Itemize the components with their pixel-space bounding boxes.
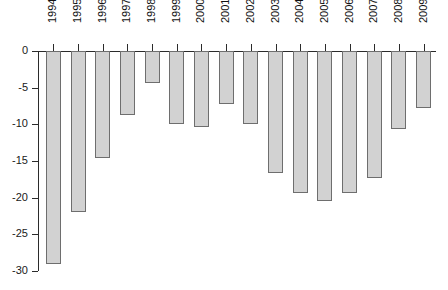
bar [71,51,86,212]
x-tick [177,44,178,51]
x-tick-label: 1997 [121,0,132,23]
y-tick-label: -30 [0,265,28,276]
x-tick-label: 2006 [344,0,355,23]
bar [219,51,234,104]
bar [145,51,160,83]
x-tick [152,44,153,51]
y-tick-label: -15 [0,155,28,166]
x-tick [201,44,202,51]
y-tick-label: -5 [0,82,28,93]
y-tick [32,271,38,272]
bar [95,51,110,158]
y-tick-label: -20 [0,192,28,203]
x-tick-label: 1994 [47,0,58,23]
y-tick [32,88,38,89]
x-tick [424,44,425,51]
bar [169,51,184,124]
y-tick-label: -10 [0,118,28,129]
x-tick-label: 2009 [418,0,429,23]
x-tick-label: 2008 [393,0,404,23]
x-tick-label: 1999 [171,0,182,23]
x-tick [374,44,375,51]
bar [268,51,283,173]
x-tick-label: 2003 [270,0,281,23]
x-tick-label: 2005 [319,0,330,23]
bar [391,51,406,129]
bar [342,51,357,193]
bar [46,51,61,264]
x-tick-label: 1995 [72,0,83,23]
x-tick [350,44,351,51]
x-tick-label: 2002 [245,0,256,23]
y-tick [32,51,38,52]
x-tick [399,44,400,51]
x-tick [127,44,128,51]
x-tick-label: 2007 [368,0,379,23]
bar [293,51,308,193]
x-tick [300,44,301,51]
x-tick [226,44,227,51]
y-tick [32,161,38,162]
bar-chart: 0-5-10-15-20-25-30 199419951996199719981… [0,0,448,290]
x-tick-label: 2004 [294,0,305,23]
plot-area: 0-5-10-15-20-25-30 199419951996199719981… [0,0,448,290]
bar [120,51,135,115]
x-tick-label: 2000 [195,0,206,23]
x-tick [53,44,54,51]
bar [416,51,431,108]
x-tick [103,44,104,51]
x-tick [251,44,252,51]
bar [317,51,332,201]
y-tick [32,124,38,125]
y-tick [32,234,38,235]
x-tick-label: 1996 [97,0,108,23]
bar [243,51,258,124]
y-tick-label: -25 [0,228,28,239]
bar [194,51,209,127]
x-tick [276,44,277,51]
y-tick-label: 0 [0,45,28,56]
y-axis-line [38,51,39,271]
x-tick-label: 2001 [220,0,231,23]
bar [367,51,382,178]
x-tick [78,44,79,51]
y-tick [32,198,38,199]
x-tick-label: 1998 [146,0,157,23]
x-tick [325,44,326,51]
